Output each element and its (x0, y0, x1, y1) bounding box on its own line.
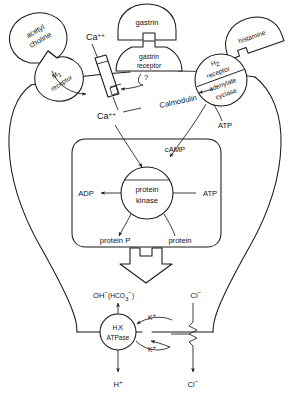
calcium-calmodulin-link (123, 108, 141, 112)
protein-kinase-label-line1: protein (135, 185, 158, 194)
calcium-release-stem (113, 97, 118, 110)
adp-label: ADP (78, 189, 94, 198)
chloride-basal-label: Cl− (188, 378, 199, 389)
chloride-channel[interactable] (171, 322, 197, 346)
kinase-to-protein-p-arc (119, 214, 131, 236)
gastrin-receptor-label-line1: gastrin (139, 53, 159, 61)
potassium-efflux-arc (137, 317, 172, 324)
atp-cyclase-link (213, 104, 222, 121)
atp-cyclase-label: ATP (218, 121, 232, 130)
parietal-cell-diagram: acetyl choline M1 receptor (0, 0, 298, 395)
protein-into-kinase-arc (164, 214, 175, 236)
hydroxide-bicarbonate-label: OH−(HCO3−) (93, 289, 134, 302)
chloride-apical-label: Cl− (191, 289, 202, 300)
atp-to-cyclase: ATP (213, 104, 232, 130)
camp-pathway: cAMP (165, 104, 206, 157)
h-k-atpase-circle (100, 314, 136, 350)
protein-kinase-label-line2: kinase (136, 196, 158, 205)
gastrin-label: gastrin (136, 18, 159, 27)
h-k-atpase-label-line2: ATPase (107, 334, 130, 341)
ligand-gastrin[interactable]: gastrin (118, 4, 176, 40)
h-k-atpase-label-line1: H,K (113, 324, 125, 331)
calmodulin-pathway: Calmodulin (123, 89, 213, 112)
diagram-canvas: acetyl choline M1 receptor (0, 0, 298, 395)
camp-to-kinase-arrow (170, 104, 206, 157)
gastrin-to-calcium-arrow (121, 85, 143, 89)
calcium-intracellular-label: Ca++ (97, 110, 116, 121)
protein-p-label: protein P (100, 236, 130, 245)
potassium-in-label: K+ (148, 343, 156, 353)
calmodulin-label: Calmodulin (159, 93, 198, 110)
atp-kinase-label: ATP (203, 189, 217, 198)
gastrin-receptor-label-line2: receptor (137, 62, 162, 70)
chloride-channel-zigzag (189, 322, 197, 346)
ligand-acetylcholine[interactable]: acetyl choline (10, 13, 67, 63)
gastrin-mediator-link (138, 74, 143, 85)
ligand-histamine[interactable]: histamine (218, 10, 284, 60)
unknown-mediator-label: ? (144, 73, 148, 82)
calcium-channel[interactable] (92, 44, 121, 110)
calcium-to-kinase-arrow (115, 125, 142, 167)
receptor-h2-adenylate-cyclase[interactable]: H2 receptor adenylate cyclase (190, 51, 251, 107)
h-k-atpase-pump[interactable]: H,K ATPase (100, 314, 136, 350)
receptor-gastrin[interactable]: gastrin receptor ? (116, 41, 182, 89)
lumen-outputs: H+ Cl− (113, 346, 198, 389)
activation-block-arrow (120, 248, 172, 283)
protein-kinase[interactable]: protein kinase (121, 167, 173, 219)
calcium-extracellular-label: Ca++ (86, 31, 105, 42)
proton-label: H+ (113, 378, 122, 389)
potassium-out-label: K+ (148, 311, 156, 321)
protein-label: protein (168, 236, 191, 245)
receptor-m1[interactable]: M1 receptor (35, 51, 86, 101)
